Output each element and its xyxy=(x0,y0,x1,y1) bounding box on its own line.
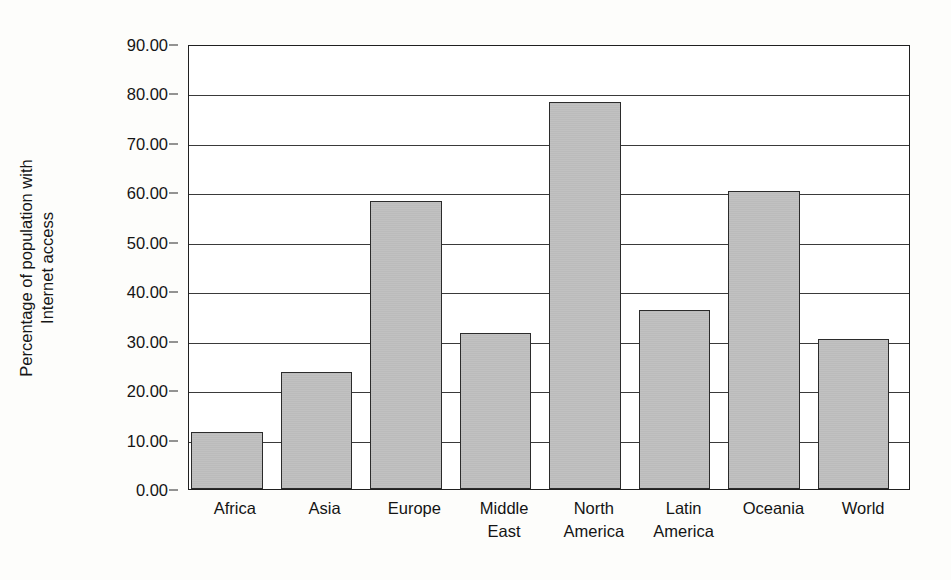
bar-slot xyxy=(639,46,729,489)
y-axis-tick-label: 30.00 xyxy=(127,332,168,351)
x-axis-tick-label-africa: Africa xyxy=(190,494,280,564)
bar-slot xyxy=(728,46,818,489)
x-axis-tick-label-line: Europe xyxy=(388,499,441,517)
y-axis-tick-label: 10.00 xyxy=(127,431,168,450)
bar-slot xyxy=(370,46,460,489)
bar-slot xyxy=(191,46,281,489)
x-axis-tick-label-line: America xyxy=(549,520,639,543)
x-axis-tick-label-line: Oceania xyxy=(743,499,804,517)
y-axis-title-line-2: Internet access xyxy=(37,159,58,376)
bar-slot xyxy=(460,46,550,489)
x-axis-tick-label-line: Africa xyxy=(214,499,256,517)
y-axis-tick-mark xyxy=(169,391,178,392)
y-axis-tick-mark xyxy=(169,143,178,144)
y-axis-tick-mark xyxy=(169,242,178,243)
plot-area xyxy=(188,45,910,490)
x-axis-tick-label-middle-east: MiddleEast xyxy=(459,494,549,564)
y-axis-tick-labels: 0.0010.0020.0030.0040.0050.0060.0070.008… xyxy=(60,0,178,580)
x-axis-tick-label-world: World xyxy=(818,494,908,564)
bar-world[interactable] xyxy=(818,339,890,489)
x-axis-tick-label-line: North xyxy=(574,499,614,517)
x-axis-tick-label-north-america: NorthAmerica xyxy=(549,494,639,564)
bar-slot xyxy=(549,46,639,489)
y-axis-tick-mark xyxy=(169,341,178,342)
y-axis-tick-mark xyxy=(169,45,178,46)
y-axis-title: Percentage of population with Internet a… xyxy=(14,45,60,490)
bar-asia[interactable] xyxy=(281,372,353,489)
y-axis-tick-label: 20.00 xyxy=(127,382,168,401)
x-axis-tick-label-line: World xyxy=(842,499,885,517)
y-axis-tick-label: 70.00 xyxy=(127,134,168,153)
x-axis-tick-label-line: America xyxy=(639,520,729,543)
bar-slot xyxy=(818,46,908,489)
bar-slot xyxy=(281,46,371,489)
x-axis-tick-labels: AfricaAsiaEuropeMiddleEastNorthAmericaLa… xyxy=(188,494,910,564)
y-axis-tick-mark xyxy=(169,292,178,293)
y-axis-tick-label: 60.00 xyxy=(127,184,168,203)
y-axis-tick-mark xyxy=(169,94,178,95)
y-axis-title-text: Percentage of population with Internet a… xyxy=(16,159,58,376)
y-axis-tick-label: 80.00 xyxy=(127,85,168,104)
x-axis-tick-label-line: East xyxy=(459,520,549,543)
y-axis-tick-label: 40.00 xyxy=(127,283,168,302)
bar-latin-america[interactable] xyxy=(639,310,711,489)
bar-series xyxy=(189,46,909,489)
bar-europe[interactable] xyxy=(370,201,442,489)
bar-oceania[interactable] xyxy=(728,191,800,489)
x-axis-tick-label-line: Asia xyxy=(309,499,341,517)
x-axis-tick-label-line: Middle xyxy=(480,499,529,517)
x-axis-tick-label-line: Latin xyxy=(666,499,702,517)
y-axis-title-line-1: Percentage of population with xyxy=(16,159,37,376)
bar-north-america[interactable] xyxy=(549,102,621,489)
bar-middle-east[interactable] xyxy=(460,333,532,489)
x-axis-tick-label-europe: Europe xyxy=(370,494,460,564)
bar-chart-figure: Percentage of population with Internet a… xyxy=(0,0,951,580)
y-axis-tick-label: 50.00 xyxy=(127,233,168,252)
y-axis-tick-mark xyxy=(169,490,178,491)
bar-africa[interactable] xyxy=(191,432,263,489)
y-axis-tick-mark xyxy=(169,440,178,441)
x-axis-tick-label-asia: Asia xyxy=(280,494,370,564)
y-axis-tick-label: 0.00 xyxy=(136,481,168,500)
y-axis-tick-mark xyxy=(169,193,178,194)
x-axis-tick-label-oceania: Oceania xyxy=(729,494,819,564)
y-axis-tick-label: 90.00 xyxy=(127,36,168,55)
x-axis-tick-label-latin-america: LatinAmerica xyxy=(639,494,729,564)
